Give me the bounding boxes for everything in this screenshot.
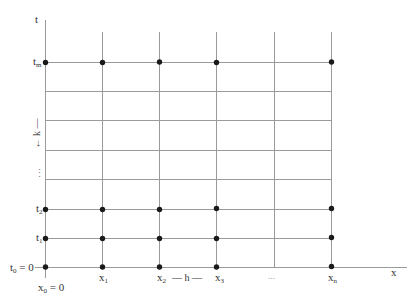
h-spacing-label: — h — [172,273,202,283]
k-spacing-label: ← k — [28,112,44,156]
t-label-tm: tm [33,56,42,69]
x-label-x0: x0 = 0 [38,282,64,295]
x-label-x2: x2 [157,272,166,285]
x-axis-label: x [391,267,397,278]
x-label-xn: xn [328,272,337,285]
x-ellipsis: ... [268,272,275,281]
vertical-grid-lines [46,20,332,278]
t-axis-label: t [35,14,38,25]
t-label-t0: t0 = 0 [10,262,34,275]
t-label-t2: t2 [36,203,43,216]
grid-diagram [0,0,419,298]
t-label-t1: t1 [36,232,43,245]
x-label-x3: x3 [215,272,224,285]
t-ellipsis: ⋮ [34,168,45,179]
x-label-x1: x1 [99,272,108,285]
horizontal-grid-lines [35,63,407,268]
